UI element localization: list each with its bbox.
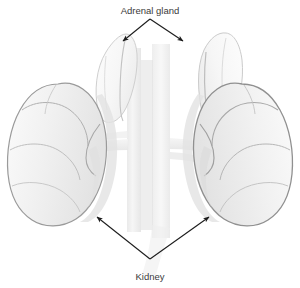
aorta-shadow [141,60,153,230]
vessel-bifurcation [142,225,170,275]
anatomy-illustration: Adrenal gland Kidney [0,0,300,288]
aorta [152,44,170,238]
anatomy-canvas: Adrenal gland Kidney [0,0,300,288]
right-kidney [183,83,293,226]
adrenal-leader-left [123,19,150,41]
left-kidney [8,83,118,226]
kidney-label: Kidney [135,271,164,282]
annotation-adrenal-gland: Adrenal gland [121,5,183,41]
adrenal-gland-label: Adrenal gland [121,5,180,16]
adrenal-leader-right [150,19,183,41]
